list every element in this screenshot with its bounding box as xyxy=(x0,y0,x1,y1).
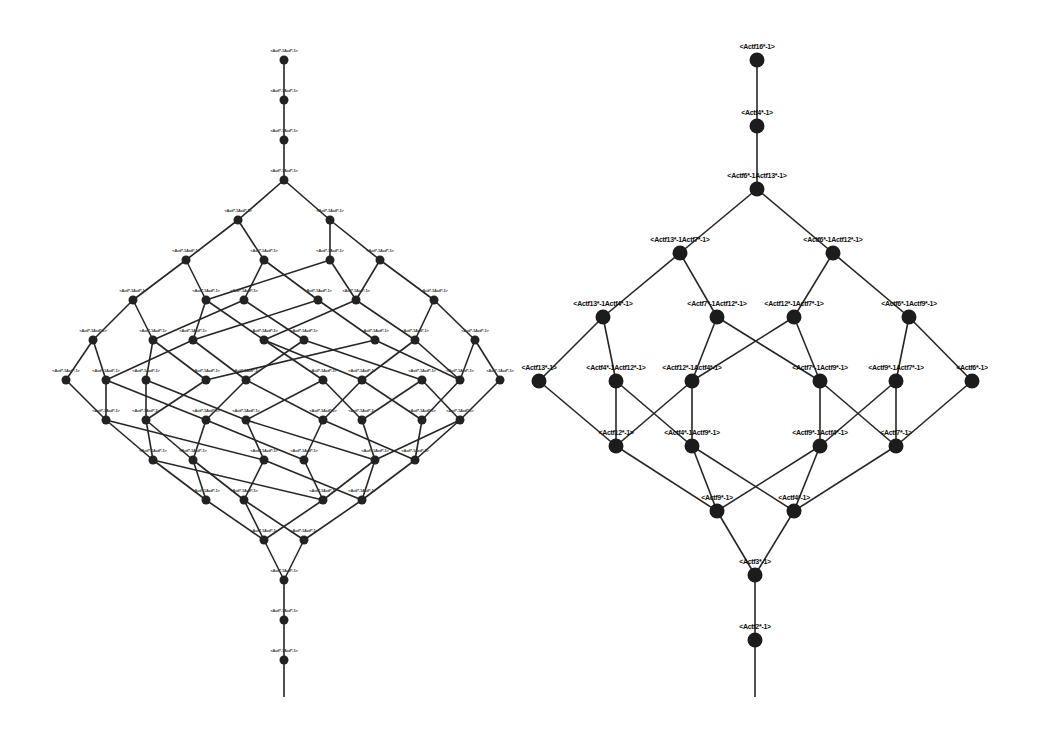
right-node-circle xyxy=(609,374,624,389)
right-node: <Actf6*-1> xyxy=(956,364,988,389)
right-node-label: <Actf6*-1> xyxy=(956,364,988,371)
left-node-circle xyxy=(280,56,289,65)
left-node-label: <Actf*-1Actf*-1> xyxy=(408,368,436,373)
right-node: <Actf7*-1> xyxy=(880,429,912,454)
left-node-label: <Actf*-1Actf*-1> xyxy=(361,448,389,453)
left-edge xyxy=(304,340,422,380)
left-edge xyxy=(304,460,323,500)
left-node-circle xyxy=(260,456,269,465)
left-edge xyxy=(193,340,246,380)
left-node-circle xyxy=(352,296,361,305)
right-node: <Actf12*-1Actf7*-1> xyxy=(764,300,823,325)
right-node: <Actf4*-1Actf12*-1> xyxy=(586,364,645,389)
left-edge xyxy=(362,460,415,500)
left-node-label: <Actf*-1Actf*-1> xyxy=(270,648,298,653)
left-node: <Actf*-1Actf*-1> xyxy=(230,288,258,305)
right-edge xyxy=(603,317,616,381)
left-node: <Actf*-1Actf*-1> xyxy=(270,568,298,585)
left-edge xyxy=(186,260,206,300)
right-node-circle xyxy=(685,374,700,389)
left-node-label: <Actf*-1Actf*-1> xyxy=(366,248,394,253)
left-node-label: <Actf*-1Actf*-1> xyxy=(250,248,278,253)
left-edge xyxy=(356,260,380,300)
left-edge xyxy=(330,220,380,260)
left-node-label: <Actf*-1Actf*-1> xyxy=(348,488,376,493)
right-node-circle xyxy=(596,310,611,325)
right-node-label: <Actf4*-1> xyxy=(741,109,773,116)
left-node: <Actf*-1Actf*-1> xyxy=(270,648,298,665)
left-node-circle xyxy=(260,336,269,345)
right-node-circle xyxy=(750,119,765,134)
left-node: <Actf*-1Actf*-1> xyxy=(250,248,278,265)
right-node-label: <Actf9*-1> xyxy=(701,494,733,501)
left-edge xyxy=(356,300,415,340)
right-node-label: <Actf6*-1Actf9*-1> xyxy=(881,300,937,307)
left-edge xyxy=(93,300,133,340)
left-node: <Actf*-1Actf*-1> xyxy=(342,288,370,305)
left-node: <Actf*-1Actf*-1> xyxy=(230,488,258,505)
right-edge xyxy=(539,381,616,446)
right-edge xyxy=(692,317,717,381)
right-node: <Actf7*-1Actf12*-1> xyxy=(687,300,746,325)
right-node: <Actf2*-1> xyxy=(739,623,771,648)
left-node-label: <Actf*-1Actf*-1> xyxy=(52,368,80,373)
right-node-label: <Actf4*-1Actf12*-1> xyxy=(586,364,645,371)
left-node-label: <Actf*-1Actf*-1> xyxy=(139,328,167,333)
left-edge xyxy=(93,340,106,380)
left-node: <Actf*-1Actf*-1> xyxy=(132,408,160,425)
left-node-label: <Actf*-1Actf*-1> xyxy=(250,328,278,333)
right-graph-nodes: <Actf16*-1><Actf4*-1><Actf6*-1Actf13*-1>… xyxy=(521,43,988,648)
left-node-label: <Actf*-1Actf*-1> xyxy=(401,448,429,453)
right-node-circle xyxy=(813,439,828,454)
right-edge xyxy=(603,253,680,317)
left-node-label: <Actf*-1Actf*-1> xyxy=(290,528,318,533)
left-node-label: <Actf*-1Actf*-1> xyxy=(230,288,258,293)
left-node-circle xyxy=(456,376,465,385)
right-node-label: <Actf9*-1Actf7*-1> xyxy=(868,364,924,371)
left-node-label: <Actf*-1Actf*-1> xyxy=(270,608,298,613)
left-node-circle xyxy=(280,656,289,665)
left-node: <Actf*-1Actf*-1> xyxy=(446,408,474,425)
right-node: <Actf12*-1> xyxy=(598,429,633,454)
left-node: <Actf*-1Actf*-1> xyxy=(270,168,298,185)
right-node: <Actf4*-1Actf9*-1> xyxy=(664,429,720,454)
left-node-circle xyxy=(149,336,158,345)
left-node: <Actf*-1Actf*-1> xyxy=(79,328,107,345)
left-node-circle xyxy=(260,256,269,265)
right-node-circle xyxy=(813,374,828,389)
left-node-label: <Actf*-1Actf*-1> xyxy=(232,368,260,373)
left-node-circle xyxy=(89,336,98,345)
left-node: <Actf*-1Actf*-1> xyxy=(52,368,80,385)
right-node-circle xyxy=(787,310,802,325)
left-node-label: <Actf*-1Actf*-1> xyxy=(192,488,220,493)
right-edge xyxy=(833,253,909,317)
left-node: <Actf*-1Actf*-1> xyxy=(309,488,337,505)
left-node-label: <Actf*-1Actf*-1> xyxy=(192,368,220,373)
left-edge xyxy=(206,340,375,380)
left-node: <Actf*-1Actf*-1> xyxy=(270,48,298,65)
left-edge xyxy=(460,380,500,420)
left-node-label: <Actf*-1Actf*-1> xyxy=(179,448,207,453)
right-edge xyxy=(539,317,603,381)
left-node-circle xyxy=(358,416,367,425)
left-node-label: <Actf*-1Actf*-1> xyxy=(270,568,298,573)
left-node-label: <Actf*-1Actf*-1> xyxy=(224,208,252,213)
right-edge xyxy=(692,446,794,511)
right-edge xyxy=(692,317,794,381)
left-node-label: <Actf*-1Actf*-1> xyxy=(270,48,298,53)
left-node-circle xyxy=(189,336,198,345)
right-node-label: <Actf12*-1Actf7*-1> xyxy=(764,300,823,307)
right-node: <Actf7*-1Actf9*-1> xyxy=(792,364,848,389)
left-node-circle xyxy=(242,416,251,425)
right-node-circle xyxy=(748,568,763,583)
left-node-label: <Actf*-1Actf*-1> xyxy=(304,288,332,293)
left-edge xyxy=(244,460,264,500)
left-edge xyxy=(304,420,323,460)
left-edge xyxy=(375,420,460,460)
left-node-label: <Actf*-1Actf*-1> xyxy=(290,328,318,333)
left-node-label: <Actf*-1Actf*-1> xyxy=(270,128,298,133)
right-edge xyxy=(680,189,757,253)
left-node-circle xyxy=(142,416,151,425)
left-edge xyxy=(246,420,264,460)
right-edge xyxy=(794,253,833,317)
